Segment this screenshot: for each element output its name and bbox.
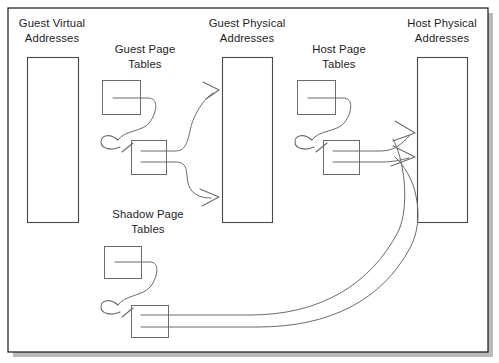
host-physical-addresses-label-line2: Addresses: [415, 32, 470, 44]
shadow-page-tables-label-line2: Tables: [131, 223, 165, 235]
host-physical-addresses-label-line1: Host Physical: [407, 17, 477, 29]
host-physical-addresses-box: [418, 58, 468, 223]
shadow-page-tables-label-line1: Shadow Page: [112, 208, 183, 220]
guest-physical-addresses-label-line2: Addresses: [220, 32, 275, 44]
host-page-tables-label-line1: Host Page: [312, 43, 366, 55]
host-page-table-box-lower: [324, 141, 360, 175]
guest-page-tables-label-line2: Tables: [128, 58, 162, 70]
guest-physical-addresses-label-line1: Guest Physical: [209, 17, 286, 29]
guest-virtual-addresses-box: [28, 58, 79, 223]
guest-page-table-box-lower: [132, 141, 167, 175]
figure-canvas: Guest Virtual Addresses Guest Page Table…: [0, 0, 499, 363]
address-translation-diagram: Guest Virtual Addresses Guest Page Table…: [0, 0, 499, 363]
shadow-page-table-box-lower: [132, 306, 169, 338]
host-page-tables-label-line2: Tables: [322, 58, 356, 70]
guest-virtual-addresses-label-line2: Addresses: [25, 32, 80, 44]
guest-physical-addresses-box: [223, 58, 273, 223]
guest-virtual-addresses-label-line1: Guest Virtual: [19, 17, 85, 29]
guest-page-tables-label-line1: Guest Page: [115, 43, 176, 55]
